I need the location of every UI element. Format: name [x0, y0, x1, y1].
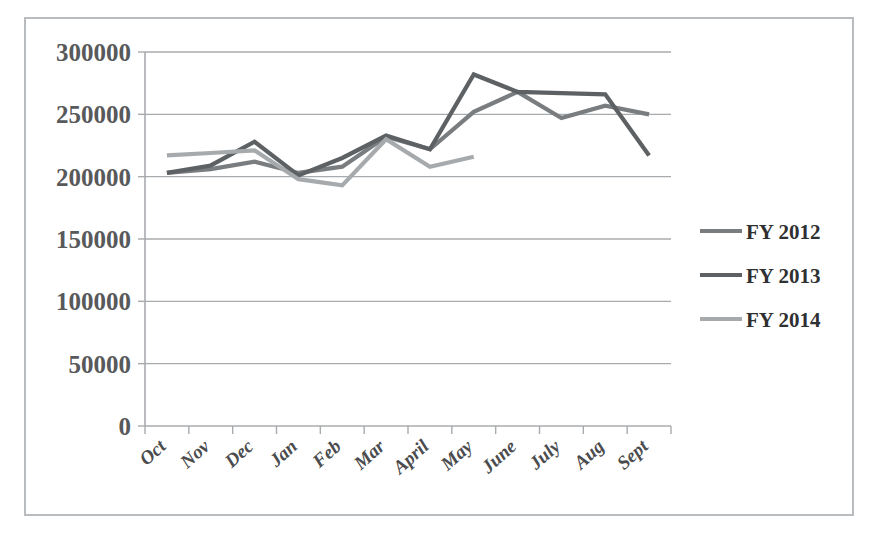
- series-line-fy-2013: [167, 74, 649, 175]
- x-axis-tick-label: Dec: [220, 435, 258, 472]
- x-axis-tick-label: April: [388, 435, 433, 479]
- chart-legend: FY 2012FY 2013FY 2014: [700, 220, 821, 332]
- y-tick-marks: [138, 52, 145, 426]
- data-series-lines: [167, 74, 649, 185]
- x-axis-tick-label: Mar: [349, 435, 389, 474]
- series-line-fy-2012: [167, 92, 649, 173]
- legend-label: FY 2014: [746, 308, 821, 332]
- x-axis-tick-label: Aug: [569, 435, 608, 473]
- x-axis-tick-label: Jan: [264, 435, 301, 471]
- y-axis-tick-label: 100000: [56, 288, 131, 315]
- y-axis-tick-label: 200000: [56, 164, 131, 191]
- x-axis-tick-label: Sept: [613, 435, 653, 474]
- y-axis-tick-label: 150000: [56, 226, 131, 253]
- legend-label: FY 2013: [746, 264, 820, 288]
- x-axis-tick-labels: OctNovDecJanFebMarAprilMayJuneJulyAugSep…: [135, 435, 652, 479]
- y-axis-tick-labels: 300000250000200000150000100000500000: [56, 39, 131, 440]
- x-axis-tick-label: June: [476, 435, 520, 478]
- x-axis-tick-label: Feb: [307, 435, 345, 472]
- x-axis-tick-label: Oct: [135, 435, 170, 469]
- chart-canvas: 300000250000200000150000100000500000 Oct…: [0, 0, 879, 546]
- y-axis-tick-label: 250000: [56, 101, 131, 128]
- y-axis-tick-label: 0: [119, 413, 132, 440]
- legend-label: FY 2012: [746, 220, 820, 244]
- x-axis-tick-label: Nov: [175, 435, 214, 473]
- y-axis-tick-label: 300000: [56, 39, 131, 66]
- x-axis-tick-label: May: [436, 435, 477, 475]
- y-axis-tick-label: 50000: [69, 351, 132, 378]
- x-axis-tick-label: July: [524, 435, 564, 474]
- x-tick-marks: [145, 426, 671, 434]
